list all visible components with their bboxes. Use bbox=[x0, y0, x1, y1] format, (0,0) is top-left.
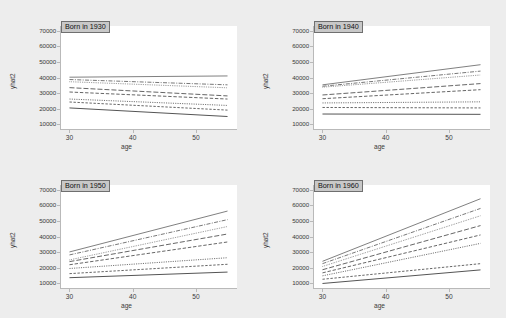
series-line-group-2 bbox=[69, 80, 227, 85]
series-line-group-5 bbox=[69, 92, 227, 99]
series-layer bbox=[0, 159, 253, 318]
figure-root: 1000020000300004000050000600007000030405… bbox=[0, 0, 506, 318]
series-line-group-3 bbox=[69, 82, 227, 88]
series-line-group-1 bbox=[322, 199, 480, 262]
series-line-group-8 bbox=[69, 272, 227, 278]
series-line-group-5 bbox=[322, 235, 480, 273]
series-line-group-6 bbox=[322, 102, 480, 103]
series-line-group-4 bbox=[69, 234, 227, 262]
series-line-group-8 bbox=[322, 270, 480, 284]
panel-3: 1000020000300004000050000600007000030405… bbox=[0, 159, 253, 318]
series-layer bbox=[0, 0, 253, 159]
series-line-group-5 bbox=[322, 90, 480, 99]
panel-title-box: Born in 1930 bbox=[61, 21, 110, 33]
series-line-group-2 bbox=[322, 71, 480, 86]
panel-4: 1000020000300004000050000600007000030405… bbox=[253, 159, 506, 318]
series-line-group-3 bbox=[322, 216, 480, 267]
series-line-group-2 bbox=[322, 208, 480, 263]
series-line-group-4 bbox=[322, 226, 480, 270]
panel-title-box: Born in 1940 bbox=[314, 21, 363, 33]
series-layer bbox=[253, 0, 506, 159]
series-line-group-6 bbox=[322, 243, 480, 275]
series-layer bbox=[253, 159, 506, 318]
series-line-group-8 bbox=[69, 108, 227, 117]
panel-1: 1000020000300004000050000600007000030405… bbox=[0, 0, 253, 159]
series-line-group-6 bbox=[69, 258, 227, 269]
panel-2: 1000020000300004000050000600007000030405… bbox=[253, 0, 506, 159]
series-line-group-6 bbox=[69, 99, 227, 105]
series-line-group-2 bbox=[69, 220, 227, 255]
panel-title-box: Born in 1950 bbox=[61, 180, 110, 192]
series-line-group-1 bbox=[69, 76, 227, 77]
panel-title-box: Born in 1960 bbox=[314, 180, 363, 192]
series-line-group-5 bbox=[69, 242, 227, 265]
series-line-group-4 bbox=[69, 88, 227, 96]
series-line-group-7 bbox=[69, 264, 227, 273]
series-line-group-1 bbox=[322, 65, 480, 85]
